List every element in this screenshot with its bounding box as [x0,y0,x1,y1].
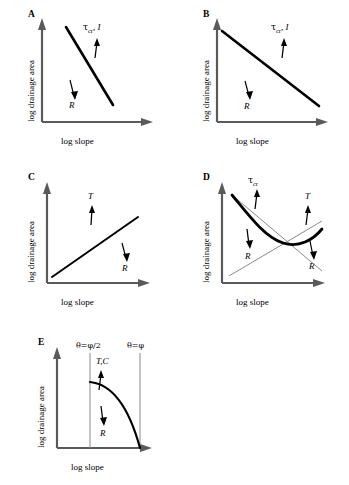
panel-b-arrow-down-r [245,81,253,100]
panel-d-arrow-up-tau [254,189,260,209]
panel-a-arrow-up-tau [94,38,100,58]
panel-d-arrow-down-r-left [246,229,253,249]
panel-e-data-curve [90,382,140,448]
panel-d-thin-line-rising [229,221,322,276]
panel-e-arrow-down-r [100,406,107,426]
panel-e: E log drainage area log slope θ=φ/2 θ=φ … [30,320,230,485]
panel-c-plot [0,155,175,320]
panel-a-axes [38,18,153,126]
panel-b-data-line [222,31,319,106]
panel-a-plot [0,0,175,155]
panel-c-data-line [52,217,138,277]
panel-d-arrow-up-t [305,205,311,225]
figure-panels-container: A log drainage area log slope τcr, I R [0,0,349,485]
panel-b-axes [213,18,328,126]
panel-d-envelope-curve [232,195,322,245]
panel-d-plot [175,155,349,320]
panel-b-arrow-up-tau [281,38,287,58]
panel-a-arrow-down-r [70,80,78,100]
panel-d: D log drainage area log slope τcr T R R [175,155,349,320]
panel-d-arrow-down-r-right [310,241,317,260]
panel-a: A log drainage area log slope τcr, I R [0,0,175,155]
panel-b: B log drainage area log slope τcr, I R [175,0,349,155]
panel-b-plot [175,0,349,155]
panel-c-arrow-up-t [89,205,95,225]
panel-c-arrow-down-r [122,243,130,262]
panel-c: C log drainage area log slope T R [0,155,175,320]
panel-e-plot [30,320,230,485]
